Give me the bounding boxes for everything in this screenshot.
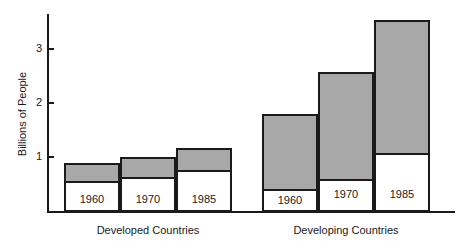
bar-developed-1985: 1985 bbox=[176, 148, 232, 212]
bar-year-label: 1985 bbox=[374, 189, 430, 200]
bar-developing-1970: 1970 bbox=[318, 72, 374, 212]
bar-year-label: 1970 bbox=[318, 189, 374, 200]
y-tick-label-3: 3 bbox=[26, 43, 42, 54]
bar-segment-upper bbox=[262, 114, 318, 191]
chart-figure: 3 2 1 Billions of People 1960 1970 1985 … bbox=[0, 0, 461, 247]
bar-segment-upper bbox=[176, 148, 232, 172]
group-label-developed: Developed Countries bbox=[64, 224, 232, 236]
y-axis-title: Billions of People bbox=[16, 54, 28, 174]
bar-year-label: 1970 bbox=[120, 194, 176, 205]
bar-year-label: 1985 bbox=[176, 194, 232, 205]
bar-segment-upper bbox=[120, 157, 176, 179]
bar-year-label: 1960 bbox=[64, 194, 120, 205]
bar-developed-1970: 1970 bbox=[120, 157, 176, 212]
y-tick-mark-3 bbox=[47, 48, 54, 50]
bar-segment-lower bbox=[374, 153, 430, 212]
bar-developing-1960: 1960 bbox=[262, 114, 318, 212]
y-tick-label-2: 2 bbox=[26, 97, 42, 108]
group-label-developing: Developing Countries bbox=[262, 224, 430, 236]
y-tick-label-1: 1 bbox=[26, 151, 42, 162]
y-tick-mark-2 bbox=[47, 102, 54, 104]
bar-year-label: 1960 bbox=[262, 195, 318, 206]
y-axis-line bbox=[47, 14, 49, 213]
bar-segment-lower bbox=[176, 170, 232, 212]
bar-developing-1985: 1985 bbox=[374, 20, 430, 212]
bar-segment-upper bbox=[318, 72, 374, 181]
bar-segment-upper bbox=[374, 20, 430, 155]
y-tick-mark-1 bbox=[47, 156, 54, 158]
bar-developed-1960: 1960 bbox=[64, 163, 120, 212]
bar-segment-upper bbox=[64, 163, 120, 183]
